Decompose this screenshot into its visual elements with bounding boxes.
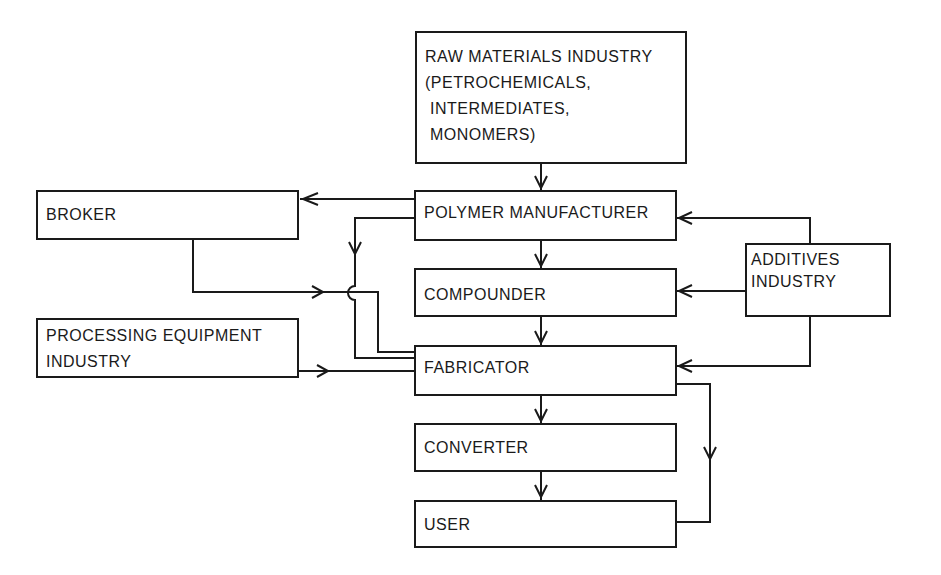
node-label: COMPOUNDER <box>424 284 546 306</box>
node-compounder: COMPOUNDER <box>414 268 677 317</box>
node-user: USER <box>414 500 677 548</box>
node-label: CONVERTER <box>424 437 529 459</box>
node-label: ADDITIVES <box>751 249 840 271</box>
edge-additives-to-polymer <box>676 218 810 243</box>
node-fabricator: FABRICATOR <box>414 345 677 396</box>
node-label: BROKER <box>46 204 117 226</box>
node-label: INDUSTRY <box>751 271 837 293</box>
node-label: (PETROCHEMICALS, <box>425 72 591 94</box>
node-label: INTERMEDIATES, <box>425 98 570 120</box>
node-label: PROCESSING EQUIPMENT <box>46 325 262 347</box>
node-additives-industry: ADDITIVES INDUSTRY <box>745 243 891 317</box>
edge-additives-to-fabricator <box>676 316 810 366</box>
node-label: INDUSTRY <box>46 351 132 373</box>
node-raw-materials-industry: RAW MATERIALS INDUSTRY (PETROCHEMICALS, … <box>415 31 687 164</box>
node-converter: CONVERTER <box>414 423 677 472</box>
edge-polymer-to-fabricator <box>348 218 414 358</box>
edge-fabricator-to-user <box>676 384 710 522</box>
node-processing-equipment-industry: PROCESSING EQUIPMENT INDUSTRY <box>36 318 299 378</box>
node-label: POLYMER MANUFACTURER <box>424 202 649 224</box>
node-label: MONOMERS) <box>425 124 536 146</box>
node-broker: BROKER <box>36 190 299 240</box>
node-label: RAW MATERIALS INDUSTRY <box>425 46 653 68</box>
node-label: FABRICATOR <box>424 357 530 379</box>
node-label: USER <box>424 514 470 536</box>
node-polymer-manufacturer: POLYMER MANUFACTURER <box>414 190 677 241</box>
